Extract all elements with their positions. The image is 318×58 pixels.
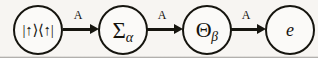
arrow-label-theta-to-e: A xyxy=(236,8,256,23)
node-theta-subscript: β xyxy=(211,29,218,44)
bottom-shadow-band xyxy=(0,56,318,58)
node-sigma-label: Σα xyxy=(113,19,134,42)
node-e-label: e xyxy=(286,21,294,39)
node-sigma-symbol: Σ xyxy=(113,18,126,43)
arrow-sigma-to-theta xyxy=(147,24,183,36)
arrow-line xyxy=(63,28,91,31)
node-theta-label: Θβ xyxy=(196,19,219,41)
node-theta-beta[interactable]: Θβ xyxy=(182,5,232,55)
node-theta-symbol: Θ xyxy=(196,17,212,42)
arrow-state-to-sigma xyxy=(63,24,99,36)
arrow-label-sigma-to-theta: A xyxy=(152,8,172,23)
arrow-label-state-to-sigma: A xyxy=(68,8,88,23)
node-sigma-alpha[interactable]: Σα xyxy=(98,5,148,55)
node-state-label: |↑⟩⟨↑| xyxy=(23,23,54,38)
node-state-ket-bra[interactable]: |↑⟩⟨↑| xyxy=(13,5,63,55)
diagram-canvas: |↑⟩⟨↑| A Σα A Θβ A e xyxy=(0,0,318,58)
arrow-line xyxy=(231,28,258,31)
node-sigma-subscript: α xyxy=(126,29,133,45)
node-e[interactable]: e xyxy=(265,5,315,55)
arrow-line xyxy=(147,28,175,31)
arrow-theta-to-e xyxy=(231,24,266,36)
